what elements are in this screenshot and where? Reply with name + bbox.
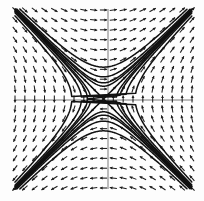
phase-portrait-figure: [0, 0, 204, 201]
phase-portrait-canvas: [0, 0, 204, 201]
